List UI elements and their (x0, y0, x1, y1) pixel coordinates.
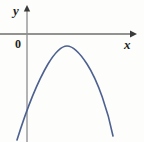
parabola-curve (17, 46, 113, 140)
parabola-figure: y x 0 (0, 0, 144, 142)
plot-canvas (0, 0, 144, 142)
y-axis-label: y (13, 4, 19, 17)
y-axis-arrow-icon (24, 5, 30, 12)
origin-label: 0 (15, 38, 21, 50)
x-axis-label: x (124, 38, 131, 51)
x-axis-arrow-icon (130, 31, 137, 38)
